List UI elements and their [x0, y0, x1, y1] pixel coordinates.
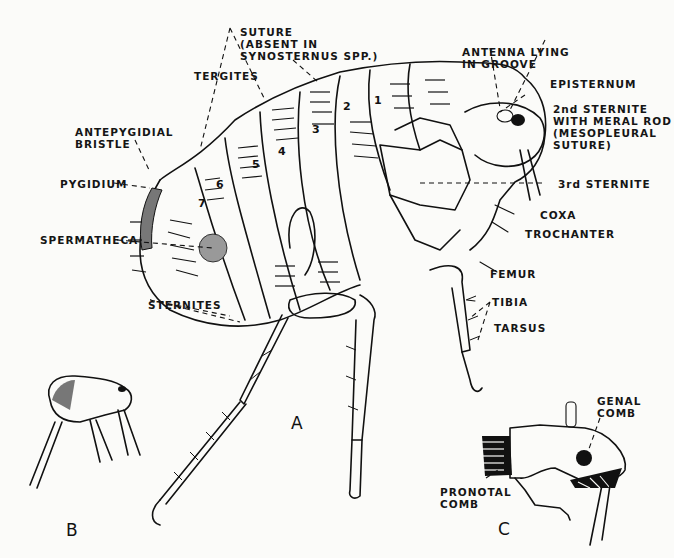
panel-label-b: B — [66, 520, 78, 540]
panel-label-a: A — [291, 413, 303, 433]
flea-anatomy-diagram: 1 2 3 4 5 6 7 SUTURE (ABSENT IN SYNOSTER… — [0, 0, 674, 558]
segment-number-2: 2 — [343, 100, 351, 113]
label-episternum: EPISTERNUM — [550, 78, 637, 90]
label-genal-comb: GENAL COMB — [597, 395, 641, 419]
label-pronotal-comb: PRONOTAL COMB — [440, 486, 512, 510]
segment-number-4: 4 — [278, 145, 286, 158]
label-suture: SUTURE (ABSENT IN SYNOSTERNUS SPP.) — [240, 26, 378, 62]
segment-number-5: 5 — [252, 158, 260, 171]
segment-number-3: 3 — [312, 123, 320, 136]
panel-label-c: C — [498, 519, 510, 539]
leg-hairs — [174, 296, 480, 480]
label-coxa: COXA — [540, 209, 576, 221]
label-antenna-in-groove: ANTENNA LYING IN GROOVE — [462, 46, 570, 70]
label-tergites: TERGITES — [194, 70, 259, 82]
segment-number-7: 7 — [198, 197, 206, 210]
label-antepygidial-bristle: ANTEPYGIDIAL BRISTLE — [75, 126, 174, 150]
label-femur: FEMUR — [490, 268, 536, 280]
segment-number-6: 6 — [216, 178, 224, 191]
label-tibia: TIBIA — [492, 296, 528, 308]
label-sternites: STERNITES — [148, 299, 222, 311]
bristles — [128, 80, 450, 286]
legs-a — [153, 150, 541, 525]
label-spermatheca: SPERMATHECA — [40, 234, 138, 246]
label-pygidium: PYGIDIUM — [60, 178, 127, 190]
segment-number-1: 1 — [374, 94, 382, 107]
flea-b — [30, 376, 140, 488]
label-tarsus: TARSUS — [494, 322, 546, 334]
label-3rd-sternite: 3rd STERNITE — [558, 178, 651, 190]
label-2nd-sternite: 2nd STERNITE WITH MERAL ROD (MESOPLEURAL… — [553, 103, 672, 151]
label-trochanter: TROCHANTER — [525, 228, 615, 240]
